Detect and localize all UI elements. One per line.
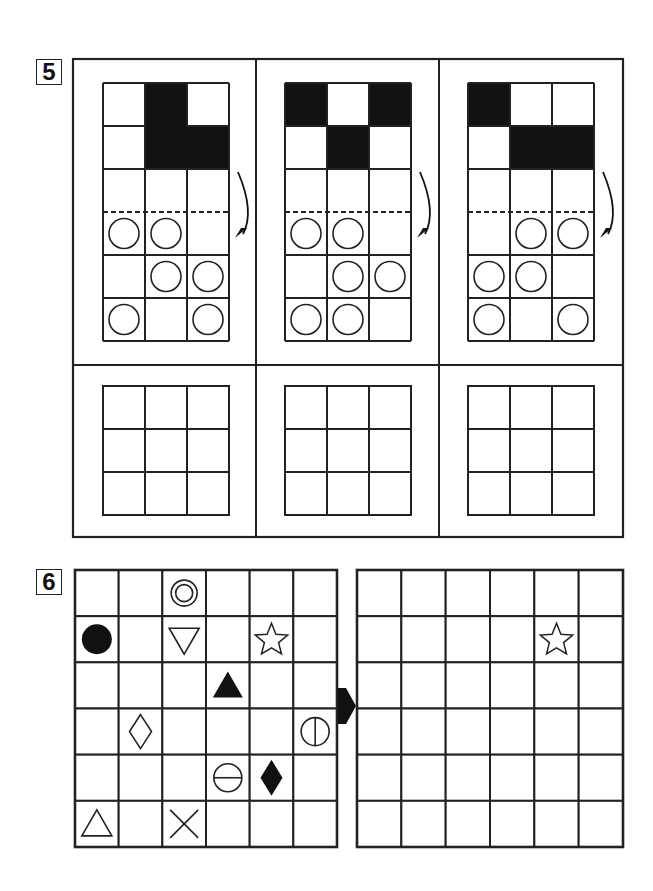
answer-cell[interactable] [103,472,145,515]
grid-cell[interactable] [357,616,401,662]
grid-cell[interactable] [490,616,534,662]
grid-cell[interactable] [401,616,445,662]
answer-cell[interactable] [552,429,594,472]
grid-cell[interactable] [490,801,534,847]
grid-cell[interactable] [534,570,578,616]
answer-cell[interactable] [369,472,411,515]
grid-cell [162,755,206,801]
grid-cell[interactable] [490,662,534,708]
grid-cell [206,570,250,616]
grid-cell [119,662,163,708]
grid-cell [250,570,294,616]
grid-cell[interactable] [579,801,623,847]
grid-cell[interactable] [357,709,401,755]
answer-cell[interactable] [552,472,594,515]
grid-cell[interactable] [579,570,623,616]
circle-mark [109,305,139,335]
grid-cell[interactable] [401,801,445,847]
grid-cell [119,801,163,847]
answer-cell[interactable] [510,429,552,472]
panel-2 [285,83,430,515]
grid-cell[interactable] [401,662,445,708]
circle-mark [516,262,546,292]
grid-cell[interactable] [357,570,401,616]
answer-cell[interactable] [510,472,552,515]
answer-cell[interactable] [327,429,369,472]
grid-cell[interactable] [357,801,401,847]
answer-cell[interactable] [510,386,552,429]
grid-cell [206,709,250,755]
circle-mark [516,219,546,249]
answer-cell[interactable] [468,472,510,515]
answer-cell[interactable] [369,429,411,472]
grid-cell[interactable] [579,755,623,801]
grid-cell [293,616,337,662]
curved-arrow-icon [238,172,248,234]
grid-cell [250,801,294,847]
answer-cell[interactable] [103,429,145,472]
right-arrow-icon [338,688,356,724]
grid-cell[interactable] [401,709,445,755]
grid-cell[interactable] [579,616,623,662]
answer-grid[interactable] [468,386,594,515]
grid-cell[interactable] [401,570,445,616]
puzzle-canvas [0,0,653,891]
grid-cell[interactable] [446,570,490,616]
answer-cell[interactable] [468,386,510,429]
answer-cell[interactable] [552,386,594,429]
grid-cell[interactable] [401,755,445,801]
grid-cell[interactable] [579,662,623,708]
grid-cell[interactable] [446,801,490,847]
circle-mark [193,262,223,292]
answer-grid[interactable] [285,386,411,515]
grid-cell [162,662,206,708]
answer-cell[interactable] [187,429,229,472]
answer-grid[interactable] [357,570,623,847]
curved-arrow-icon [420,172,430,234]
grid-cell [75,570,119,616]
circle-mark [474,262,504,292]
grid-cell [162,570,206,616]
filled-cell [510,126,552,169]
answer-cell[interactable] [327,472,369,515]
answer-cell[interactable] [145,429,187,472]
circle-mark [151,219,181,249]
grid-cell [162,709,206,755]
arrowhead-icon [235,228,247,238]
answer-cell[interactable] [187,472,229,515]
circle-mark [333,262,363,292]
grid-cell[interactable] [490,709,534,755]
grid-cell[interactable] [534,801,578,847]
grid-cell[interactable] [446,709,490,755]
answer-cell[interactable] [369,386,411,429]
grid-cell[interactable] [357,662,401,708]
grid-cell[interactable] [490,755,534,801]
circle-mark [375,262,405,292]
grid-cell[interactable] [446,662,490,708]
filled-cell [468,83,510,126]
answer-cell[interactable] [285,429,327,472]
grid-cell[interactable] [534,755,578,801]
answer-cell[interactable] [145,386,187,429]
answer-cell[interactable] [103,386,145,429]
grid-cell [75,662,119,708]
grid-cell [250,662,294,708]
answer-grid[interactable] [103,386,229,515]
answer-cell[interactable] [285,386,327,429]
grid-cell [119,616,163,662]
grid-cell[interactable] [579,709,623,755]
grid-cell[interactable] [446,616,490,662]
answer-cell[interactable] [327,386,369,429]
answer-cell[interactable] [145,472,187,515]
filled-cell [145,126,187,169]
answer-cell[interactable] [285,472,327,515]
grid-cell [75,709,119,755]
grid-cell[interactable] [357,755,401,801]
answer-cell[interactable] [468,429,510,472]
grid-cell[interactable] [534,709,578,755]
grid-cell[interactable] [446,755,490,801]
answer-cell[interactable] [187,386,229,429]
circle-mark [291,305,321,335]
grid-cell[interactable] [534,662,578,708]
grid-cell[interactable] [490,570,534,616]
